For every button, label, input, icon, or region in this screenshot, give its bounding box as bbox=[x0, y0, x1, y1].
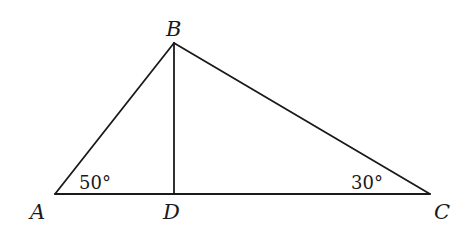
vertex-label-d: D bbox=[162, 200, 180, 224]
angle-label-c: 30° bbox=[351, 172, 383, 193]
triangle-diagram: B A D C 50° 30° bbox=[0, 0, 471, 231]
diagram-canvas: B A D C 50° 30° bbox=[0, 0, 471, 231]
segment-ab bbox=[55, 43, 174, 194]
angle-label-a: 50° bbox=[79, 172, 111, 193]
vertex-label-b: B bbox=[165, 17, 181, 41]
segment-bc bbox=[174, 43, 430, 194]
vertex-label-a: A bbox=[28, 200, 45, 224]
vertex-label-c: C bbox=[434, 200, 450, 224]
